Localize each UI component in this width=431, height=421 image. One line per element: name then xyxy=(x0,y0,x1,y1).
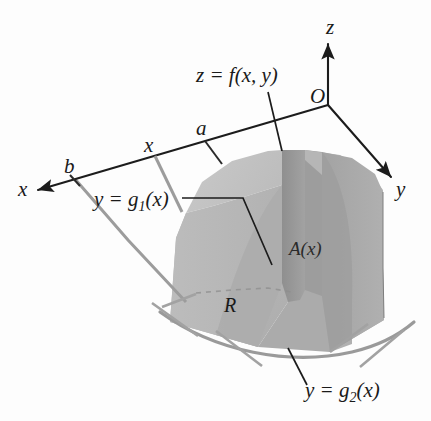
math-diagram-svg: z O y x a x b z = f(x, y) y = g1(x) y = … xyxy=(0,0,431,421)
g2-label-tail: (x) xyxy=(357,378,380,402)
g2-label-main: y = g xyxy=(303,378,350,402)
g2-label-subscript: 2 xyxy=(350,390,357,405)
g1-label-tail: (x) xyxy=(146,187,169,211)
cross-section-label: A(x) xyxy=(287,238,322,260)
mark-label-x: x xyxy=(143,133,154,157)
solid-body xyxy=(170,150,384,352)
z-axis-label: z xyxy=(325,15,334,39)
solid-right-edge xyxy=(383,192,384,318)
y-axis-label: y xyxy=(394,177,406,201)
g1-label-main: y = g xyxy=(92,187,139,211)
g2-label: y = g2(x) xyxy=(303,378,380,405)
cross-section-face xyxy=(282,150,305,302)
g1-label: y = g1(x) xyxy=(92,187,169,214)
mark-label-b: b xyxy=(64,154,75,178)
region-label: R xyxy=(223,294,236,316)
g1-label-subscript: 1 xyxy=(139,199,146,214)
tick-mark-a xyxy=(205,141,222,164)
x-axis-label: x xyxy=(17,177,28,201)
origin-label: O xyxy=(310,84,325,108)
surface-label: z = f(x, y) xyxy=(195,63,278,87)
figure-container: z O y x a x b z = f(x, y) y = g1(x) y = … xyxy=(0,0,431,421)
mark-label-a: a xyxy=(196,116,207,140)
